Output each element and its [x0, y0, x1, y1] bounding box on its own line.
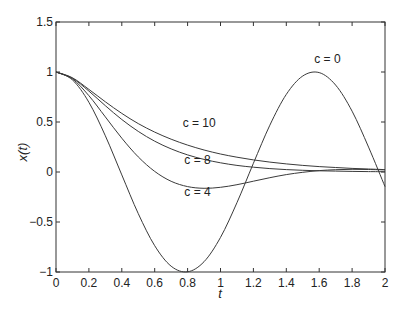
curve-c10: [56, 72, 385, 170]
curve-labels: c = 0c = 4c = 8c = 10: [183, 52, 341, 199]
x-tick-label: 0.8: [179, 276, 196, 290]
x-tick-label: 0.6: [146, 276, 163, 290]
x-tick-label: 0.4: [113, 276, 130, 290]
curve-label-c10: c = 10: [183, 116, 216, 130]
y-tick-label: 1: [46, 65, 53, 79]
y-tick-label: 0: [46, 165, 53, 179]
curve-label-c0: c = 0: [314, 52, 341, 66]
chart: 00.20.40.60.811.21.41.61.82 −1−0.500.511…: [0, 0, 405, 310]
y-tick-labels: −1−0.500.511.5: [29, 15, 53, 279]
x-tick-label: 1.6: [311, 276, 328, 290]
x-tick-label: 0.2: [81, 276, 98, 290]
curves: [56, 72, 385, 272]
y-tick-label: −0.5: [29, 215, 53, 229]
y-tick-label: 0.5: [36, 115, 53, 129]
curve-label-c4: c = 4: [184, 185, 211, 199]
y-tick-label: 1.5: [36, 15, 53, 29]
y-tick-label: −1: [39, 265, 53, 279]
x-tick-label: 1.8: [344, 276, 361, 290]
x-tick-label: 1.2: [245, 276, 262, 290]
y-axis-label: x(t): [15, 143, 30, 163]
x-tick-label: 2: [382, 276, 389, 290]
x-tick-label: 0: [53, 276, 60, 290]
curve-c8: [56, 72, 385, 172]
x-tick-label: 1.4: [278, 276, 295, 290]
curve-label-c8: c = 8: [184, 153, 211, 167]
